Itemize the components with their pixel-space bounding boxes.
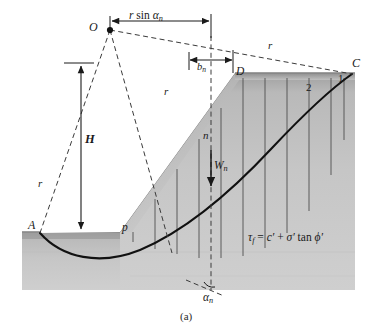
label-alpha-sub: n bbox=[159, 14, 163, 23]
eq-sigma: σ′ bbox=[287, 231, 295, 243]
label-radius-left: r bbox=[38, 178, 42, 189]
label-W: W bbox=[214, 159, 224, 171]
label-H: H bbox=[85, 133, 95, 146]
label-b-sub: n bbox=[202, 65, 206, 74]
ground-surface-left-2 bbox=[22, 232, 121, 239]
label-W-sub: n bbox=[224, 164, 228, 173]
label-radius-mid: r bbox=[164, 86, 168, 97]
center-of-rotation-dot bbox=[107, 27, 113, 33]
equation-shear-strength: τf = c′ + σ′ tan ϕ′ bbox=[248, 232, 323, 245]
label-slice-number-2: 2 bbox=[306, 82, 312, 93]
label-alpha-n-sub: n bbox=[209, 296, 213, 305]
label-slice-n: n bbox=[203, 130, 209, 141]
label-radius-right: r bbox=[268, 40, 272, 51]
ground-surface-crest-2 bbox=[235, 73, 355, 80]
diagram-canvas bbox=[0, 0, 377, 332]
label-point-O: O bbox=[89, 21, 98, 33]
label-point-p: p bbox=[122, 222, 128, 234]
label-point-A: A bbox=[28, 219, 35, 231]
label-sin: sin bbox=[136, 9, 149, 21]
label-bn: bn bbox=[197, 62, 206, 73]
soil-left-block bbox=[22, 232, 120, 290]
label-r-sin-alpha-n: r sin αn bbox=[129, 10, 163, 23]
label-alpha-n: αn bbox=[203, 292, 213, 305]
eq-tan: tan bbox=[298, 231, 312, 243]
label-point-D: D bbox=[236, 66, 244, 78]
figure-caption: (a) bbox=[180, 310, 192, 322]
label-slice-number-1: 1 bbox=[338, 73, 344, 84]
figure-slope-stability-method-of-slices: r sin αn bn O A p D C H r r r n Wn 1 2 α… bbox=[0, 0, 377, 332]
label-weight-Wn: Wn bbox=[214, 160, 228, 173]
label-point-C: C bbox=[352, 57, 360, 69]
eq-phi: ϕ′ bbox=[315, 231, 323, 243]
